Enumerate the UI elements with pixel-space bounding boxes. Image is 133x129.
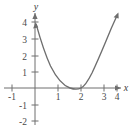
y-tick-label-4: 4 (22, 18, 27, 28)
parabola-curve (36, 15, 117, 90)
parabola-graph-figure: -1 1 2 3 4 4 3 2 1 -1 -2 x y (0, 0, 133, 129)
y-tick-label-2: 2 (22, 52, 27, 62)
y-tick-label-3: 3 (22, 35, 27, 45)
x-tick-label-4: 4 (115, 92, 120, 102)
x-tick-label-1: 1 (56, 92, 61, 102)
x-axis-arrow-icon (115, 85, 121, 90)
curve-right-arrow-icon (114, 13, 119, 19)
y-tick-label--2: -2 (19, 117, 27, 127)
coordinate-plane: -1 1 2 3 4 4 3 2 1 -1 -2 x y (0, 0, 133, 129)
x-axis-label: x (123, 82, 129, 93)
y-axis-arrow-icon (32, 13, 37, 19)
y-tick-label-1: 1 (22, 68, 27, 78)
x-tick-label--1: -1 (8, 92, 16, 102)
x-tick-label-2: 2 (79, 92, 84, 102)
x-tick-label-3: 3 (102, 92, 107, 102)
y-tick-label--1: -1 (19, 101, 27, 111)
y-axis-label: y (33, 1, 39, 12)
